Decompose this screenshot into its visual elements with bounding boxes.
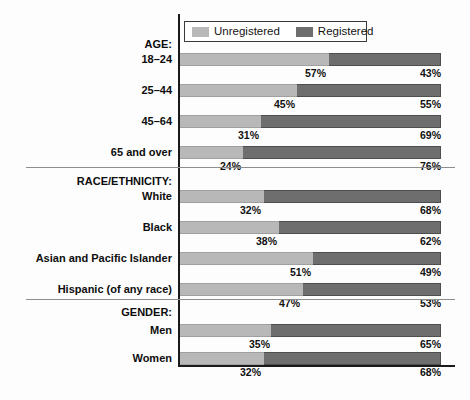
value-label-unregistered-women: 32% bbox=[180, 366, 261, 378]
chart-legend: Unregistered Registered bbox=[184, 21, 367, 42]
value-label-registered-18-24: 43% bbox=[420, 67, 441, 79]
group-heading-age: AGE: bbox=[0, 38, 172, 50]
stacked-bar-men[interactable] bbox=[180, 324, 441, 337]
bar-segment-unregistered bbox=[180, 283, 303, 296]
value-label-unregistered-25-44: 45% bbox=[180, 98, 295, 110]
row-label-65-and-over: 65 and over bbox=[0, 146, 172, 159]
row-label-black: Black bbox=[0, 221, 172, 234]
bar-segment-registered bbox=[297, 84, 441, 97]
value-label-unregistered-asian-and-pacific-islander: 51% bbox=[180, 266, 311, 278]
value-label-registered-black: 62% bbox=[420, 235, 441, 247]
bar-segment-registered bbox=[264, 352, 441, 365]
stacked-bar-25-44[interactable] bbox=[180, 84, 441, 97]
value-label-unregistered-45-64: 31% bbox=[180, 129, 259, 141]
row-label-white: White bbox=[0, 190, 172, 203]
value-label-unregistered-black: 38% bbox=[180, 235, 277, 247]
bar-segment-unregistered bbox=[180, 146, 243, 159]
stacked-bar-asian-and-pacific-islander[interactable] bbox=[180, 252, 441, 265]
legend-item-registered[interactable]: Registered bbox=[296, 26, 374, 38]
value-label-unregistered-18-24: 57% bbox=[180, 67, 326, 79]
row-label-women: Women bbox=[0, 352, 172, 365]
bar-segment-registered bbox=[313, 252, 441, 265]
bar-segment-unregistered bbox=[180, 352, 264, 365]
value-label-registered-women: 68% bbox=[420, 366, 441, 378]
stacked-bar-45-64[interactable] bbox=[180, 115, 441, 128]
bar-segment-registered bbox=[264, 190, 441, 203]
bar-segment-registered bbox=[279, 221, 441, 234]
value-label-registered-asian-and-pacific-islander: 49% bbox=[420, 266, 441, 278]
bar-segment-unregistered bbox=[180, 252, 313, 265]
value-label-unregistered-white: 32% bbox=[180, 204, 261, 216]
legend-swatch-registered-icon bbox=[296, 27, 313, 37]
stacked-bar-black[interactable] bbox=[180, 221, 441, 234]
stacked-bar-white[interactable] bbox=[180, 190, 441, 203]
value-label-registered-65-and-over: 76% bbox=[420, 160, 441, 172]
value-label-unregistered-men: 35% bbox=[180, 338, 270, 350]
row-label-men: Men bbox=[0, 324, 172, 337]
row-label-45-64: 45–64 bbox=[0, 115, 172, 128]
group-heading-race-ethnicity: RACE/ETHNICITY: bbox=[0, 175, 172, 187]
row-label-asian-and-pacific-islander: Asian and Pacific Islander bbox=[0, 252, 172, 265]
row-label-18-24: 18–24 bbox=[0, 53, 172, 66]
bar-segment-unregistered bbox=[180, 115, 261, 128]
legend-swatch-unregistered-icon bbox=[192, 27, 209, 37]
group-separator-1 bbox=[26, 167, 455, 168]
value-label-registered-45-64: 69% bbox=[420, 129, 441, 141]
legend-label-unregistered: Unregistered bbox=[214, 26, 280, 38]
row-label-hispanic-of-any-race: Hispanic (of any race) bbox=[0, 283, 172, 296]
bar-segment-unregistered bbox=[180, 324, 271, 337]
stacked-bar-65-and-over[interactable] bbox=[180, 146, 441, 159]
value-label-registered-white: 68% bbox=[420, 204, 441, 216]
stacked-bar-hispanic-of-any-race[interactable] bbox=[180, 283, 441, 296]
bar-segment-registered bbox=[303, 283, 441, 296]
value-label-registered-25-44: 55% bbox=[420, 98, 441, 110]
bar-segment-registered bbox=[243, 146, 441, 159]
bar-segment-unregistered bbox=[180, 53, 329, 66]
bar-segment-registered bbox=[261, 115, 441, 128]
value-label-registered-men: 65% bbox=[420, 338, 441, 350]
stacked-bar-18-24[interactable] bbox=[180, 53, 441, 66]
voter-registration-chart: Unregistered Registered AGE: 18–24 57% 4… bbox=[0, 0, 470, 400]
bar-segment-unregistered bbox=[180, 190, 264, 203]
group-separator-2 bbox=[26, 299, 455, 300]
value-label-unregistered-65-and-over: 24% bbox=[180, 160, 241, 172]
bar-segment-unregistered bbox=[180, 84, 297, 97]
bar-segment-registered bbox=[271, 324, 441, 337]
bar-segment-registered bbox=[329, 53, 441, 66]
bar-segment-unregistered bbox=[180, 221, 279, 234]
group-heading-gender: GENDER: bbox=[0, 306, 172, 318]
legend-label-registered: Registered bbox=[318, 26, 374, 38]
legend-item-unregistered[interactable]: Unregistered bbox=[192, 26, 280, 38]
stacked-bar-women[interactable] bbox=[180, 352, 441, 365]
row-label-25-44: 25–44 bbox=[0, 84, 172, 97]
